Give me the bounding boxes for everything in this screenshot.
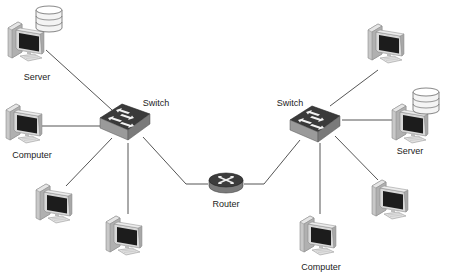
left-pc-2-icon [106, 216, 142, 255]
router-icon [209, 173, 243, 193]
right-pc-top-icon [368, 24, 404, 63]
link-left-pc1-switch [66, 138, 112, 186]
left-computer-label: Computer [12, 150, 52, 160]
left-pc-1-icon [36, 184, 72, 223]
right-server-label: Server [397, 146, 424, 156]
link-right-switch-pc-top [330, 70, 378, 106]
right-server [392, 88, 439, 143]
left-server-label: Server [24, 72, 51, 82]
link-left-switch-router [143, 137, 208, 184]
database-icon [413, 88, 439, 114]
link-right-switch-pc-mid [335, 136, 378, 180]
left-switch-label: Switch [143, 98, 170, 108]
link-left-server-switch [46, 50, 112, 110]
left-server [8, 6, 62, 61]
right-pc-mid-icon [372, 180, 408, 219]
right-switch-icon [290, 106, 340, 142]
router-label: Router [212, 199, 239, 209]
left-computer-icon [6, 104, 42, 143]
right-computer-label: Computer [301, 262, 341, 272]
database-icon [36, 6, 62, 32]
right-computer-icon [300, 216, 336, 255]
left-switch-icon [100, 104, 150, 140]
right-switch-label: Switch [277, 98, 304, 108]
link-router-right-switch [244, 140, 300, 184]
diagram-canvas [0, 0, 451, 280]
network-diagram: Server Computer Switch Router Switch Ser… [0, 0, 451, 280]
